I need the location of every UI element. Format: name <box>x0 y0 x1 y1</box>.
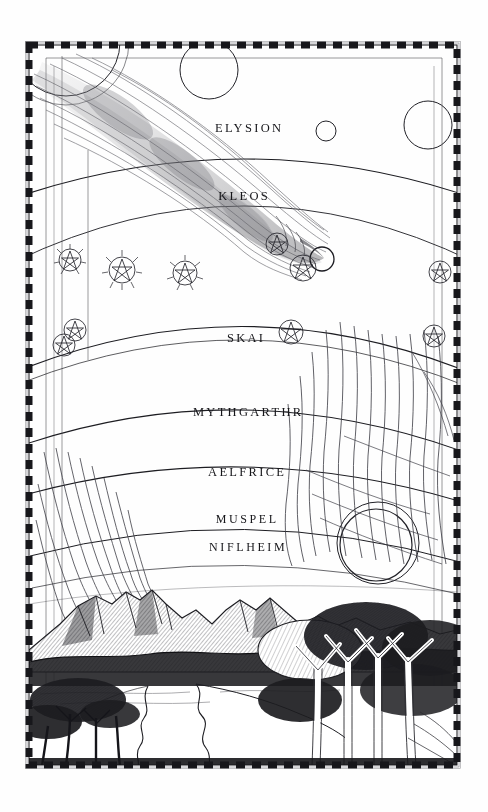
realm-label-mythgarthr: MYTHGARTHR <box>191 405 304 420</box>
realm-label-skai: SKAI <box>225 331 266 346</box>
realm-label-aelfrice: AELFRICE <box>206 465 286 480</box>
landscape <box>14 590 478 766</box>
realm-label-muspel: MUSPEL <box>213 512 278 527</box>
realm-label-niflheim: NIFLHEIM <box>207 540 287 555</box>
realm-label-kleos: KLEOS <box>216 189 270 204</box>
realm-label-elysion: ELYSION <box>213 121 284 136</box>
illustration-plate: ELYSION KLEOS SKAI MYTHGARTHR AELFRICE M… <box>0 0 488 812</box>
